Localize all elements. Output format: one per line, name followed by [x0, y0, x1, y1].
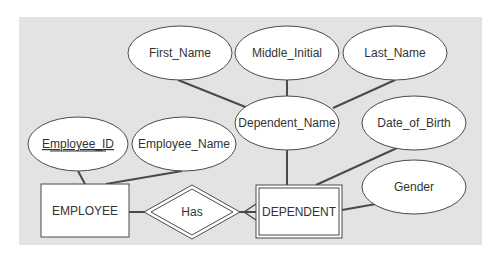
attribute-label: Date_of_Birth: [377, 116, 450, 130]
relationship-label: Has: [181, 205, 202, 219]
attribute-label: Gender: [394, 180, 434, 194]
attribute-label: Employee_Name: [138, 137, 230, 151]
attribute-label: Middle_Initial: [252, 46, 322, 60]
crows-foot-icon: [244, 204, 256, 220]
attribute-middle-initial[interactable]: Middle_Initial: [235, 26, 339, 80]
relationship-has[interactable]: Has: [144, 185, 240, 239]
key-attribute-label: Employee_ID: [42, 137, 114, 151]
entity-label: EMPLOYEE: [52, 204, 118, 218]
entity-label: DEPENDENT: [262, 205, 337, 219]
line-employeeid-employee: [78, 171, 85, 184]
attribute-label: First_Name: [149, 46, 211, 60]
attribute-first-name[interactable]: First_Name: [128, 26, 232, 80]
attribute-date-of-birth[interactable]: Date_of_Birth: [362, 96, 466, 150]
entity-employee[interactable]: EMPLOYEE: [41, 184, 129, 237]
attribute-label: Dependent_Name: [238, 116, 336, 130]
line-employeename-employee: [106, 171, 182, 184]
attribute-employee-name[interactable]: Employee_Name: [132, 117, 236, 171]
attribute-label: Last_Name: [364, 46, 426, 60]
er-diagram: First_Name Middle_Initial Last_Name Depe…: [0, 0, 497, 255]
attribute-employee-id[interactable]: Employee_ID: [28, 117, 128, 171]
attribute-dependent-name[interactable]: Dependent_Name: [235, 96, 339, 150]
attribute-last-name[interactable]: Last_Name: [343, 26, 447, 80]
line-firstname-dependentname: [178, 80, 248, 108]
line-gender-dependent: [342, 204, 376, 210]
entity-dependent[interactable]: DEPENDENT: [256, 185, 342, 238]
attribute-gender[interactable]: Gender: [362, 160, 466, 214]
